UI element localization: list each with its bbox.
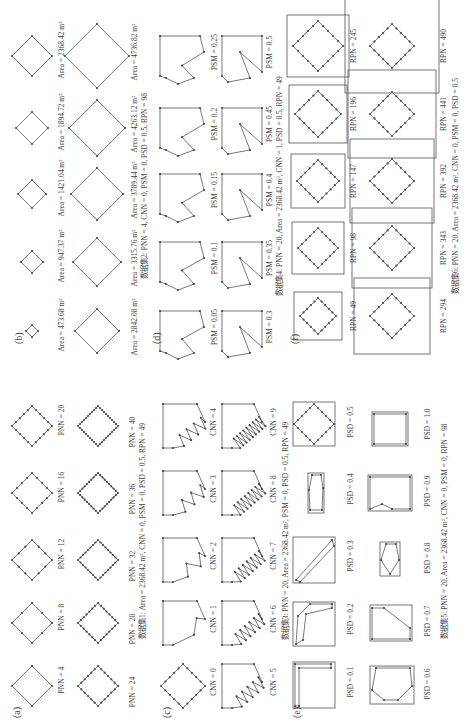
rpn-label: RPN = 343	[439, 231, 448, 265]
psm-label: PSM = 0.35	[265, 240, 274, 276]
pnn-label: PNN = 28	[128, 614, 137, 645]
psd-label: PSD = 0.8	[423, 542, 432, 573]
caption-dataset-1: 数据集1: Area = 2368.42 m², CNN = 0, PSM = …	[137, 423, 147, 639]
psm-label: PSM = 0.1	[210, 242, 219, 275]
psd-label: PSD = 0.2	[346, 603, 355, 634]
cnn-label: CNN = 7	[269, 542, 278, 570]
panel-label-e: (e)	[291, 707, 303, 718]
rpn-label: RPN = 98	[349, 233, 358, 263]
caption-dataset-4: 数据集4: PNN = 20, Area = 2368.42 m², CNN =…	[274, 76, 284, 296]
area-label: Area = 947.37 m²	[57, 229, 66, 283]
psm-label: PSM = 0.15	[210, 172, 219, 208]
panel-label-b: (b)	[13, 332, 25, 344]
pnn-label: PNN = 20	[57, 405, 66, 436]
area-label: Area = 4263.12 m²	[130, 95, 139, 153]
cnn-label: CNN = 4	[209, 408, 218, 436]
pnn-label: PNN = 40	[128, 417, 137, 448]
psm-label: PSM = 0.25	[210, 34, 219, 70]
psm-label: PSM = 0.5	[265, 36, 274, 69]
figure-canvas: (a)PNN = 4PNN = 8PNN = 12PNN = 16PNN = 2…	[0, 0, 468, 726]
area-label: Area = 4736.82 m²	[130, 23, 139, 81]
psd-label: PSD = 0.6	[423, 668, 432, 699]
panel-f	[287, 0, 439, 354]
pnn-label: PNN = 8	[57, 603, 66, 630]
area-label: Area = 1894.72 m²	[57, 93, 66, 151]
panel-label-f: (f)	[289, 334, 301, 344]
cnn-label: CNN = 8	[269, 475, 278, 503]
cnn-label: CNN = 9	[269, 408, 278, 436]
cnn-label: CNN = 5	[269, 668, 278, 696]
rpn-label: RPN = 441	[439, 97, 448, 131]
pnn-label: PNN = 24	[128, 677, 137, 708]
pnn-label: PNN = 4	[57, 666, 66, 693]
psm-label: PSM = 0.05	[210, 309, 219, 345]
psd-label: PSD = 0.3	[346, 540, 355, 571]
rpn-label: RPN = 49	[349, 301, 358, 331]
area-label: Area = 3315.76 m²	[130, 229, 139, 287]
area-label: Area = 2842.08 m²	[130, 298, 139, 356]
caption-dataset-2: 数据集2: PNN = 4, CNN = 0, PSM = 0, PSD = 0…	[139, 93, 149, 279]
pnn-label: PNN = 32	[128, 551, 137, 582]
psd-label: PSD = 1.0	[423, 408, 432, 439]
panel-b	[11, 23, 130, 354]
psd-label: PSD = 0.5	[346, 406, 355, 437]
psd-label: PSD = 0.7	[423, 605, 432, 636]
panel-label-a: (a)	[11, 707, 23, 718]
pnn-label: PNN = 36	[128, 484, 137, 515]
psd-label: PSD = 0.9	[423, 475, 432, 506]
cnn-label: CNN = 1	[209, 605, 218, 633]
psd-label: PSD = 0.1	[346, 666, 355, 697]
cnn-label: CNN = 6	[269, 605, 278, 633]
pnn-label: PNN = 16	[57, 472, 66, 503]
area-label: Area = 2368.42 m²	[57, 21, 66, 79]
rpn-label: RPN = 392	[439, 164, 448, 198]
rpn-label: RPN = 147	[349, 164, 358, 198]
cnn-label: CNN = 3	[209, 475, 218, 503]
caption-dataset-5: 数据集5: PNN = 20, Area = 2368.42 m², CNN =…	[439, 423, 449, 638]
rpn-label: RPN = 196	[349, 97, 358, 131]
area-label: Area = 3789.44 m²	[130, 161, 139, 219]
rpn-label: RPN = 490	[439, 29, 448, 63]
cnn-label: CNN = 0	[209, 668, 218, 696]
psm-label: PSM = 0.4	[265, 174, 274, 207]
psd-label: PSD = 0.4	[346, 473, 355, 504]
psm-label: PSM = 0.45	[265, 106, 274, 142]
psm-label: PSM = 0.3	[265, 311, 274, 344]
cnn-label: CNN = 2	[209, 542, 218, 570]
psm-label: PSM = 0.2	[210, 108, 219, 141]
panel-label-c: (c)	[161, 707, 173, 718]
rpn-label: RPN = 245	[349, 29, 358, 63]
caption-dataset-6: 数据集6: PNN = 20, Area = 2368.42 m², CNN =…	[450, 78, 460, 294]
rpn-label: RPN = 294	[439, 299, 448, 333]
figure-svg: (a)PNN = 4PNN = 8PNN = 12PNN = 16PNN = 2…	[0, 0, 468, 726]
area-label: Area = 1421.04 m²	[57, 159, 66, 217]
area-label: Area = 473.68 m²	[57, 298, 66, 352]
pnn-label: PNN = 12	[57, 539, 66, 570]
caption-dataset-3: 数据集3: PNN = 20, Area = 2368.42 m², PSM =…	[280, 421, 290, 640]
panel-label-d: (d)	[151, 332, 163, 344]
